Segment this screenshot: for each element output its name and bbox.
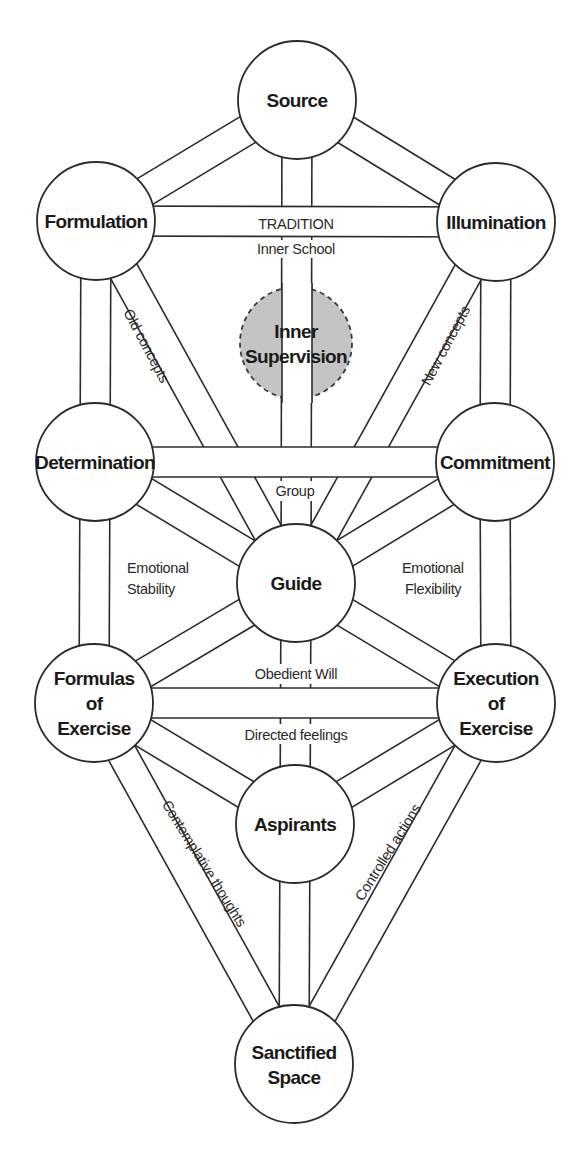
node-formulas-of-exercise: FormulasofExercise (35, 644, 153, 762)
node-label: Formulation (44, 211, 147, 232)
node-label: Illumination (446, 212, 545, 233)
label-emotional-flexibility-2: Flexibility (405, 581, 462, 597)
node-label: of (488, 693, 506, 714)
node-label: Formulas (54, 668, 135, 689)
label-group: Group (276, 483, 315, 499)
label-inner-school: Inner School (257, 241, 335, 257)
node-label: Execution (453, 668, 538, 689)
node-label: Sanctified (252, 1042, 337, 1063)
node-label: Space (268, 1067, 321, 1088)
node-label: Inner (274, 321, 319, 342)
label-tradition: TRADITION (258, 216, 333, 232)
node-label: Exercise (459, 718, 532, 739)
node-illumination: Illumination (437, 163, 555, 281)
node-sanctified-space: SanctifiedSpace (235, 1005, 353, 1123)
node-execution-of-exercise: ExecutionofExercise (437, 644, 555, 762)
label-emotional-flexibility-1: Emotional (402, 560, 464, 576)
node-aspirants: Aspirants (236, 765, 354, 883)
node-label: Exercise (57, 718, 130, 739)
path-formulas-of-exercise-to-execution-of-exercise (94, 688, 496, 718)
node-inner-supervision: InnerSupervision (240, 283, 352, 403)
node-label: Commitment (440, 452, 551, 473)
label-directed-feelings: Directed feelings (245, 727, 348, 743)
node-label: of (86, 693, 104, 714)
node-determination: Determination (35, 403, 155, 521)
path-determination-to-commitment (95, 447, 495, 477)
tree-of-life-diagram: TRADITION Inner School Old concepts New … (0, 0, 586, 1159)
label-emotional-stability-2: Stability (127, 581, 176, 597)
node-label: Guide (271, 573, 322, 594)
node-label: Aspirants (254, 814, 336, 835)
node-label: Supervision (245, 346, 347, 367)
node-commitment: Commitment (436, 403, 554, 521)
node-formulation: Formulation (37, 162, 155, 280)
node-label: Determination (35, 452, 155, 473)
node-source: Source (238, 41, 356, 159)
node-guide: Guide (237, 524, 355, 642)
label-obedient-will: Obedient Will (255, 666, 337, 682)
node-circle (235, 1005, 353, 1123)
node-label: Source (267, 90, 328, 111)
label-emotional-stability-1: Emotional (127, 560, 189, 576)
